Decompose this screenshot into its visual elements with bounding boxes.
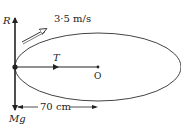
- center-label: O: [94, 71, 101, 81]
- tension-label: T: [53, 52, 61, 63]
- tension-arrowhead: [53, 64, 59, 70]
- velocity-label: 3·5 m/s: [54, 13, 91, 24]
- radius-dimension-left-head: [17, 105, 23, 109]
- circular-motion-diagram: R Mg 3·5 m/s T O 70 cm: [0, 0, 181, 126]
- velocity-arrow: [22, 29, 46, 42]
- mass-point: [12, 64, 17, 69]
- radius-label: 70 cm: [40, 101, 72, 112]
- radius-dimension-right-head: [92, 105, 98, 109]
- weight-label: Mg: [8, 113, 26, 124]
- reaction-label: R: [2, 15, 11, 26]
- center-point: [97, 66, 100, 69]
